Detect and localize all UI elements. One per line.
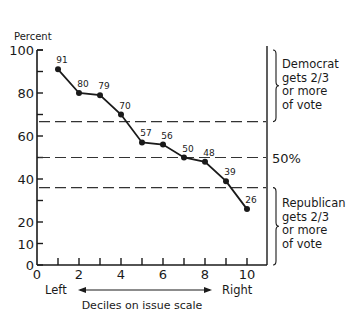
- democrat-annotation: gets 2/3: [282, 71, 329, 85]
- data-point: [160, 142, 166, 148]
- data-point-label: 79: [98, 81, 110, 91]
- x-right-label: Right: [222, 283, 253, 297]
- y-tick-label: 60: [17, 129, 34, 144]
- x-axis-title: Deciles on issue scale: [82, 299, 203, 312]
- x-tick-label: 10: [239, 267, 256, 282]
- arrow-right-icon: [204, 287, 212, 293]
- data-point: [202, 159, 208, 165]
- data-point-label: 70: [119, 101, 131, 111]
- republican-annotation: Republican: [282, 196, 346, 210]
- brace-icon: [273, 50, 279, 122]
- y-tick-label: 100: [9, 43, 34, 58]
- data-point: [139, 139, 145, 145]
- y-tick-label: 80: [17, 86, 34, 101]
- republican-annotation: or more: [282, 223, 327, 237]
- democrat-annotation: Democrat: [282, 57, 339, 71]
- democrat-annotation: or more: [282, 84, 327, 98]
- data-point: [223, 178, 229, 184]
- brace-icon: [273, 188, 279, 265]
- x-tick-label: 0: [33, 267, 41, 282]
- republican-annotation: gets 2/3: [282, 210, 329, 224]
- data-point: [76, 90, 82, 96]
- y-tick-label: 20: [17, 215, 34, 230]
- y-tick-label: 10: [17, 237, 34, 252]
- data-point-label: 91: [56, 55, 67, 65]
- data-point-label: 48: [203, 148, 215, 158]
- data-point: [181, 155, 187, 161]
- republican-annotation: of vote: [282, 237, 322, 251]
- x-tick-label: 2: [75, 267, 83, 282]
- data-point-label: 56: [161, 131, 173, 141]
- data-series: 91807970575650483926: [55, 55, 257, 212]
- x-left-label: Left: [45, 283, 67, 297]
- data-point-label: 80: [77, 79, 89, 89]
- arrow-left-icon: [78, 287, 86, 293]
- data-point-label: 39: [224, 167, 236, 177]
- data-point-label: 26: [245, 195, 257, 205]
- data-point: [244, 206, 250, 212]
- y-tick-label: 40: [17, 172, 34, 187]
- x-tick-label: 6: [159, 267, 167, 282]
- data-point: [97, 92, 103, 98]
- data-point: [55, 66, 61, 72]
- line-chart: Percent010204060801000246810LeftRightDec…: [0, 0, 356, 324]
- data-point-label: 50: [182, 144, 194, 154]
- x-tick-label: 4: [117, 267, 125, 282]
- data-point: [118, 112, 124, 118]
- x-tick-label: 8: [201, 267, 209, 282]
- data-point-label: 57: [140, 128, 151, 138]
- fifty-percent-label: 50%: [272, 151, 301, 166]
- y-axis-title: Percent: [14, 31, 52, 42]
- democrat-annotation: of vote: [282, 98, 322, 112]
